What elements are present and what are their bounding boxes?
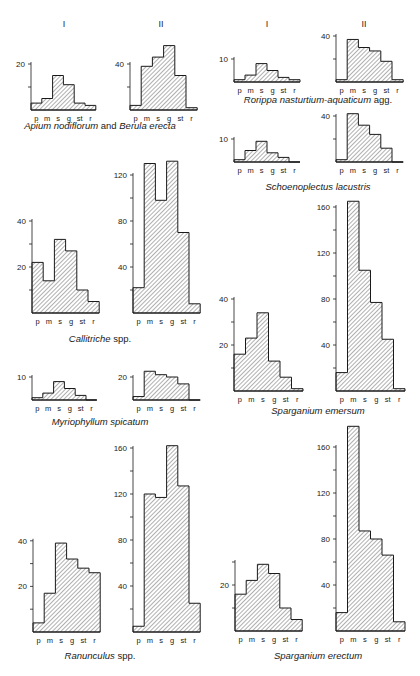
y-tick-label: 120 <box>317 249 331 258</box>
category-label: p <box>340 166 344 175</box>
y-tick-label: 80 <box>321 295 330 304</box>
category-label: st <box>283 395 290 404</box>
histogram-panel-II: 20pmsgstr <box>118 371 200 413</box>
y-tick-label: 10 <box>219 135 228 144</box>
species-caption: Rorippa nasturtium-aquaticum agg. <box>244 94 392 105</box>
category-label: s <box>58 317 62 326</box>
column-header-I: I <box>266 19 269 29</box>
y-tick-label: 40 <box>17 217 26 226</box>
y-tick-label: 40 <box>321 341 330 350</box>
y-tick-label: 120 <box>114 171 128 180</box>
histogram-bars <box>336 201 405 391</box>
category-label: m <box>350 635 356 644</box>
category-label: m <box>147 404 153 413</box>
histogram-bars <box>234 313 303 391</box>
y-tick-label: 120 <box>114 490 128 499</box>
category-label: p <box>137 636 141 645</box>
category-label: g <box>69 317 73 326</box>
category-label: g <box>170 317 174 326</box>
category-label: m <box>247 166 253 175</box>
species-caption: Apium nodiflorum and Berula erecta <box>23 120 176 131</box>
category-label: st <box>385 395 392 404</box>
column-headers: IIIIII <box>63 19 367 29</box>
category-label: r <box>295 635 298 644</box>
histogram-panel-I: 10pmsgstr <box>17 373 97 413</box>
category-label: g <box>70 636 74 645</box>
y-tick-label: 80 <box>118 536 127 545</box>
histogram-bars <box>234 141 300 162</box>
category-label: g <box>374 635 378 644</box>
species-chart: 10pmsgstr20pmsgstrMyriophyllum spicatum <box>17 371 200 427</box>
category-label: g <box>68 404 72 413</box>
category-label: g <box>270 166 274 175</box>
category-label: st <box>281 166 288 175</box>
histogram-panel-I: 10pmsgstr <box>219 55 300 95</box>
histogram-panel-I: 2040pmsgstr <box>17 217 99 326</box>
column-header-II: II <box>361 19 366 29</box>
category-label: p <box>238 395 242 404</box>
category-label: p <box>237 86 241 95</box>
species-chart: 2040pmsgstr4080120160pmsgstrSparganium e… <box>219 201 405 416</box>
category-label: g <box>373 166 377 175</box>
y-tick-label: 20 <box>16 60 25 69</box>
histogram-bars <box>32 382 97 400</box>
category-label: s <box>159 317 163 326</box>
y-tick-label: 80 <box>321 535 330 544</box>
category-label: m <box>147 317 153 326</box>
category-label: s <box>57 404 61 413</box>
category-label: st <box>180 636 187 645</box>
category-label: st <box>78 404 85 413</box>
category-label: s <box>260 166 264 175</box>
y-tick-label: 20 <box>17 263 26 272</box>
category-label: p <box>137 317 141 326</box>
species-chart: 2040pmsgstr4080120pmsgstrCallitriche spp… <box>17 161 200 344</box>
category-label: r <box>193 636 196 645</box>
category-label: s <box>159 636 163 645</box>
category-label: r <box>398 395 401 404</box>
histogram-bars <box>336 426 405 631</box>
histogram-bars <box>336 114 403 162</box>
y-tick-label: 10 <box>17 373 26 382</box>
category-label: st <box>79 317 86 326</box>
histogram-panel-I: 10pmsgstr <box>219 135 300 175</box>
y-tick-label: 40 <box>321 581 330 590</box>
histogram-bars <box>336 39 403 82</box>
species-chart: 20pmsgstr40pmsgstrApium nodiflorum and B… <box>16 46 197 131</box>
species-chart: 20pmsgstr4080120160pmsgstrSparganium ere… <box>220 426 405 661</box>
category-label: m <box>249 635 255 644</box>
category-label: m <box>350 166 356 175</box>
category-label: p <box>37 636 41 645</box>
histogram-panel-I: 20pmsgstr <box>220 560 302 644</box>
species-chart: 2040pmsgstr4080120160pmsgstrRanunculus s… <box>18 444 200 661</box>
histogram-panel-I: 2040pmsgstr <box>219 295 303 404</box>
histogram-panel-II: 4080120160pmsgstr <box>317 201 405 404</box>
category-label: st <box>177 114 184 123</box>
category-label: s <box>363 635 367 644</box>
column-header-I: I <box>63 19 66 29</box>
category-label: m <box>248 395 254 404</box>
category-label: r <box>296 395 299 404</box>
histogram-panel-II: 40pmsgstr <box>321 112 403 175</box>
category-label: st <box>282 635 289 644</box>
histogram-panel-II: 4080120pmsgstr <box>114 161 201 326</box>
category-label: g <box>272 635 276 644</box>
category-label: r <box>398 635 401 644</box>
category-label: m <box>350 395 356 404</box>
category-label: p <box>340 635 344 644</box>
y-tick-label: 160 <box>317 203 331 212</box>
y-tick-label: 20 <box>118 373 127 382</box>
y-tick-label: 20 <box>219 341 228 350</box>
histogram-bars <box>130 46 197 110</box>
category-label: s <box>261 395 265 404</box>
histogram-bars <box>133 371 200 400</box>
category-label: r <box>293 166 296 175</box>
y-tick-label: 40 <box>321 32 330 41</box>
histogram-bars <box>33 543 100 632</box>
y-tick-label: 40 <box>115 60 124 69</box>
histogram-panel-II: 4080120160pmsgstr <box>317 426 405 644</box>
category-label: s <box>59 636 63 645</box>
category-label: st <box>383 166 390 175</box>
category-label: st <box>180 317 187 326</box>
y-tick-label: 20 <box>220 581 229 590</box>
category-label: s <box>261 635 265 644</box>
